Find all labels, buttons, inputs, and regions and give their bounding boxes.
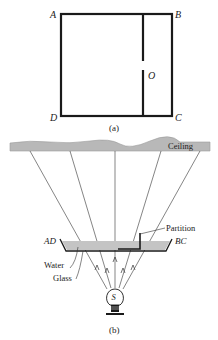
light-bulb: S	[106, 289, 124, 315]
figure-a: A B C D O (a)	[49, 9, 182, 133]
edge-label-ad: AD	[43, 236, 56, 246]
corner-label-a: A	[49, 9, 57, 20]
water-label: Water	[44, 260, 64, 270]
room-outline	[61, 14, 172, 116]
caption-a: (a)	[109, 123, 119, 133]
edge-label-bc: BC	[175, 236, 187, 246]
glass-leader	[76, 251, 83, 279]
diagram-canvas: A B C D O (a) Ceiling	[0, 0, 218, 340]
corner-label-d: D	[49, 112, 58, 123]
corner-label-b: B	[175, 9, 181, 20]
glass-label: Glass	[53, 273, 72, 283]
ceiling-label: Ceiling	[168, 141, 194, 151]
partition-leader	[140, 228, 165, 234]
corner-label-c: C	[175, 112, 182, 123]
gap-label-o: O	[148, 70, 155, 81]
water	[62, 241, 170, 250]
caption-b: (b)	[109, 325, 120, 335]
figure-b: Ceiling Partition AD BC Water	[10, 137, 210, 335]
water-leader	[70, 247, 78, 268]
partition-label: Partition	[166, 223, 196, 233]
